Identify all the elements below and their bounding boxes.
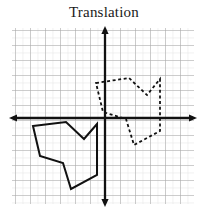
- coordinate-plane: [0, 0, 208, 215]
- grid-major: [12, 28, 194, 204]
- grid-group: [12, 28, 194, 204]
- translation-figure: Translation: [0, 0, 208, 215]
